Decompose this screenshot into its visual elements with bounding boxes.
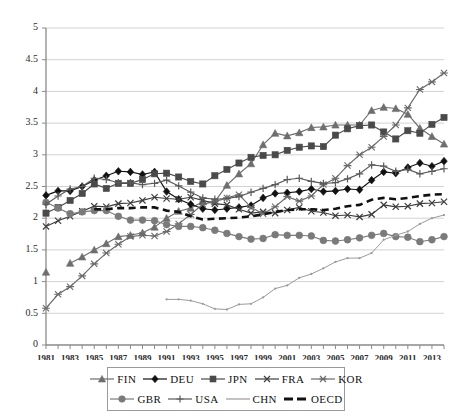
data-point-marker [260,152,266,158]
x-axis-tick-label: 1989 [133,353,152,360]
data-point-marker [151,233,159,239]
x-axis-tick-label: 2001 [278,353,297,360]
legend-marker [152,375,158,382]
data-point-marker [443,214,445,216]
data-point-marker [67,210,74,217]
diamond-marker-icon [142,373,168,385]
data-point-marker [344,126,350,132]
chart-plot-area: 00.511.522.533.544.551981198319851987198… [0,0,451,360]
data-point-marker [417,159,424,167]
data-point-marker [380,163,387,170]
data-point-marker [260,235,267,242]
data-point-marker [102,250,110,256]
data-point-marker [188,178,194,184]
data-point-marker [380,230,387,237]
y-axis-tick-label: 3 [33,148,38,159]
data-point-marker [356,152,364,158]
legend-item-oecd[interactable]: OECD [283,393,343,405]
data-point-marker [428,79,436,85]
y-axis-tick-label: 4 [33,85,38,96]
data-point-marker [284,176,291,183]
data-point-marker [236,160,242,166]
data-point-marker [416,238,423,245]
x-axis-tick-label: 1995 [206,353,225,360]
x-marker-icon [254,373,280,385]
data-point-marker [176,174,182,180]
legend-item-chn[interactable]: CHN [225,393,277,405]
legend-item-fra[interactable]: FRA [254,373,305,385]
data-point-marker [187,223,194,230]
data-point-marker [383,239,385,241]
data-point-marker [43,210,49,216]
y-axis-tick-label: 1.5 [26,243,39,254]
y-axis-tick-label: 0 [33,338,38,349]
x-axis-tick-label: 2009 [375,353,394,360]
x-axis-tick-label: 1987 [109,353,128,360]
data-point-marker [296,188,303,196]
data-point-marker [298,277,300,279]
legend-item-gbr[interactable]: GBR [109,393,161,405]
data-point-marker [78,183,85,190]
legend-item-kor[interactable]: KOR [310,373,362,385]
data-point-marker [295,198,303,204]
data-point-marker [271,181,278,188]
data-point-marker [407,230,409,232]
chart-page: 00.511.522.533.544.551981198319851987198… [0,0,451,419]
data-point-marker [212,206,219,214]
data-point-marker [308,143,314,149]
data-point-marker [395,234,397,236]
legend-item-usa[interactable]: USA [167,393,218,405]
x-axis-tick-label: 2013 [423,353,442,360]
data-point-marker [416,170,423,177]
data-point-marker [190,299,192,301]
none-marker-icon [225,393,251,405]
y-axis-tick-label: 2 [33,211,38,222]
data-point-marker [78,273,86,279]
legend-item-jpn[interactable]: JPN [200,373,248,385]
data-point-marker [66,284,74,290]
legend-item-label: FRA [282,373,305,385]
data-point-marker [78,253,85,260]
data-point-marker [308,233,315,240]
data-point-marker [429,121,435,127]
data-point-marker [284,147,290,153]
data-point-marker [417,130,423,136]
data-point-marker [440,140,447,147]
data-point-marker [296,175,303,182]
x-axis-tick-label: 1981 [37,353,56,360]
data-point-marker [310,273,312,275]
data-point-marker [284,189,291,197]
data-point-marker [441,157,448,165]
legend-item-fin[interactable]: FIN [89,373,136,385]
data-point-marker [320,237,327,244]
legend-marker [319,376,327,382]
data-point-marker [344,236,351,243]
data-point-marker [139,217,146,224]
data-point-marker [211,227,218,234]
data-point-marker [262,296,264,298]
data-point-marker [114,241,122,247]
series-oecd [94,194,444,219]
legend-item-label: FIN [117,373,136,385]
line-chart-svg: 00.511.522.533.544.551981198319851987198… [0,0,451,360]
data-point-marker [440,165,447,172]
data-point-marker [271,130,278,137]
legend-marker [177,395,184,402]
data-point-marker [296,129,303,136]
asterisk-marker-icon [310,373,336,385]
legend-item-deu[interactable]: DEU [142,373,194,385]
data-point-marker [441,114,447,120]
legend-row-1: FINDEUJPNFRAKOR [108,369,344,389]
data-point-marker [54,192,61,199]
square-marker-icon [200,373,226,385]
y-axis-tick-label: 0.5 [26,307,39,318]
dash-marker-icon [283,393,309,405]
data-point-marker [163,228,171,234]
data-point-marker [247,160,254,167]
data-point-marker [163,176,170,183]
data-point-marker [322,267,324,269]
data-point-marker [370,252,372,254]
data-point-marker [272,190,279,198]
data-point-marker [151,217,158,224]
data-point-marker [260,194,267,202]
